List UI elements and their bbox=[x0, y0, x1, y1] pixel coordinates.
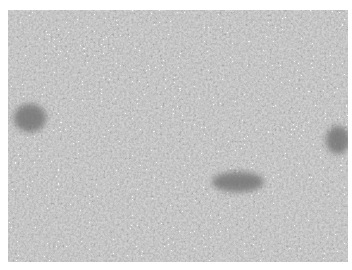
center-vessel bbox=[212, 172, 264, 192]
tissue-texture bbox=[8, 10, 348, 262]
micrograph-image bbox=[8, 10, 348, 262]
cell-speckle bbox=[8, 10, 348, 262]
left-vessel bbox=[14, 104, 46, 132]
